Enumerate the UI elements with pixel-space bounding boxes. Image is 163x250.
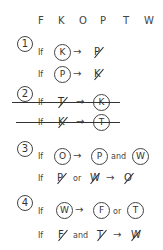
premise-circled: K	[54, 44, 71, 61]
conclusion-a-circled: P	[91, 148, 108, 165]
arrow-icon: →	[75, 204, 83, 216]
if-label: If	[38, 70, 43, 79]
strikethrough-line	[12, 102, 120, 103]
premise-circled: O	[54, 148, 71, 165]
premise-b-negated: W	[90, 172, 100, 184]
strikethrough-line	[16, 122, 120, 123]
header-letter-t: T	[123, 15, 129, 26]
premise-circled: P	[54, 66, 71, 83]
conclusion-negated: W	[131, 229, 141, 241]
rule-number-3: 3	[17, 141, 33, 157]
rule-number-4: 4	[17, 195, 33, 211]
connector-and: and	[73, 231, 88, 240]
arrow-icon: →	[73, 150, 81, 162]
premise-a-negated: F	[58, 229, 64, 241]
connector-or: or	[113, 207, 121, 216]
header-letter-w: W	[144, 15, 154, 26]
arrow-icon: →	[73, 68, 81, 80]
if-label: If	[38, 231, 43, 240]
conclusion-negated: P	[94, 46, 100, 58]
connector-or: or	[73, 174, 81, 183]
conclusion-negated: K	[94, 68, 101, 80]
header-letter-o: O	[79, 15, 87, 26]
if-label: If	[38, 174, 43, 183]
if-label: If	[38, 207, 43, 216]
conclusion-negated: O	[124, 172, 132, 184]
premise-a-negated: P	[57, 172, 63, 184]
arrow-icon: →	[73, 46, 81, 58]
if-label: If	[38, 152, 43, 161]
rule-number-1: 1	[17, 36, 33, 52]
premise-circled: W	[56, 202, 73, 219]
conclusion-b-circled: T	[127, 202, 144, 219]
rule-number-2: 2	[17, 86, 33, 102]
header-letter-p: P	[100, 15, 106, 26]
conclusion-b-circled: W	[132, 148, 149, 165]
arrow-icon: →	[106, 172, 114, 184]
conclusion-a-circled: F	[93, 202, 110, 219]
premise-b-negated: T	[97, 229, 103, 241]
if-label: If	[38, 48, 43, 57]
connector-and: and	[111, 152, 126, 161]
arrow-icon: →	[113, 229, 121, 241]
header-letter-f: F	[38, 15, 44, 26]
header-letter-k: K	[58, 15, 65, 26]
